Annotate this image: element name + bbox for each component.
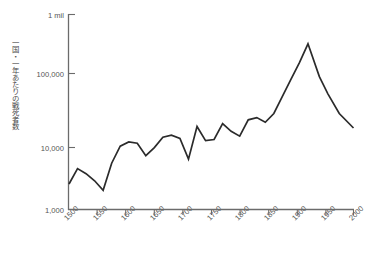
chart-container: 一国・一年あたりの戦死者数 1 mil 100,000 10,000 1,000… — [0, 0, 370, 255]
plot-area — [0, 0, 370, 255]
x-axis-ticks — [97, 210, 353, 215]
data-line-war-deaths — [69, 44, 354, 191]
